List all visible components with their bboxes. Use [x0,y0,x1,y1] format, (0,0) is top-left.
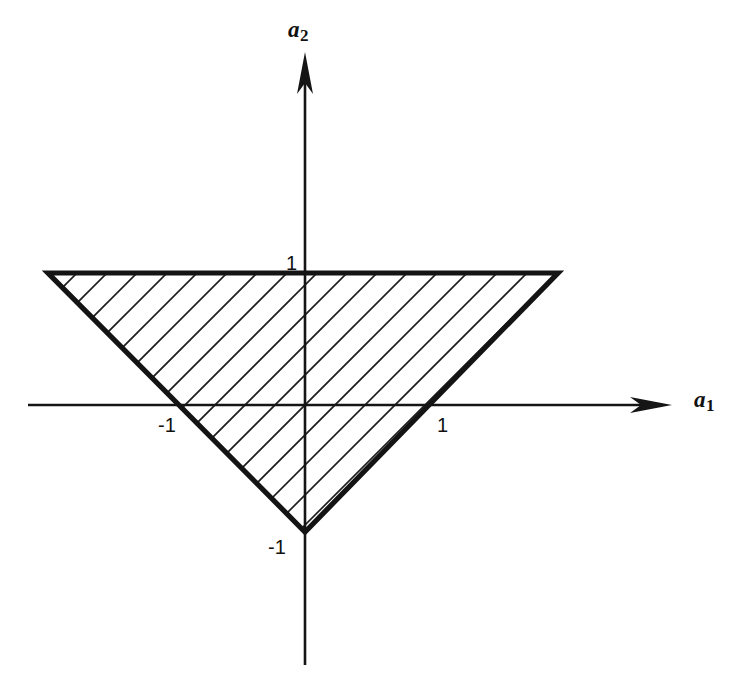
stationarity-triangle-plot [0,0,747,686]
stationarity-region-outline [48,273,558,532]
y-axis-label-subscript: 2 [300,26,309,45]
x-tick-label-one: 1 [437,415,448,435]
y-axis [297,52,313,665]
x-axis [28,397,672,413]
y-tick-label-one: 1 [286,253,297,273]
y-axis-label: a2 [288,18,309,44]
x-tick-label-minus-one: -1 [158,415,176,435]
x-axis-label: a1 [694,388,715,414]
region-hatch-fill [0,210,650,560]
x-axis-label-variable: a [694,387,706,412]
figure-canvas: a2 a1 -1 1 1 -1 [0,0,747,686]
y-axis-label-variable: a [288,17,300,42]
x-axis-label-subscript: 1 [706,396,715,415]
y-tick-label-minus-one: -1 [268,537,286,557]
